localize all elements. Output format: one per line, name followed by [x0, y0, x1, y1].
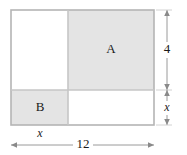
dim-x-vert-arrow-top [164, 90, 170, 96]
region-b-label: B [36, 99, 45, 114]
figure-canvas: A B 4 x x [0, 0, 187, 155]
dim-x-horiz-label: x [36, 126, 43, 140]
dim-x-vert-arrow-bottom [164, 119, 170, 125]
dimension-height-x: x [156, 90, 173, 125]
dim-4-arrow-bottom [164, 84, 170, 90]
dim-12-arrow-left [11, 142, 17, 148]
dimension-width-x: x [36, 126, 43, 140]
dim-12-label: 12 [77, 136, 90, 151]
geometry-figure: A B 4 x x [0, 0, 187, 155]
dimension-height-4: 4 [156, 10, 173, 90]
region-a-label: A [106, 41, 116, 56]
dim-x-vert-label: x [163, 100, 170, 114]
dim-4-arrow-top [164, 10, 170, 16]
dim-4-label: 4 [164, 41, 171, 56]
dim-12-arrow-right [148, 142, 154, 148]
dimension-width-12: 12 [11, 136, 154, 153]
